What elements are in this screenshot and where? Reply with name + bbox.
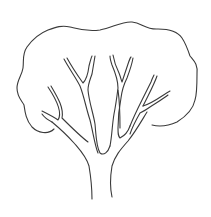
branch-right-main	[130, 75, 154, 126]
trunk-left-edge	[52, 122, 92, 199]
branch-right-twig-lower	[130, 95, 168, 134]
trunk-right-edge	[111, 112, 148, 197]
branch-center-inner	[113, 55, 131, 82]
tree-drawing	[0, 0, 211, 217]
branch-right-main-inner	[143, 76, 157, 106]
branch-left-main-outer	[64, 59, 98, 153]
tree-illustration	[0, 0, 211, 217]
branch-left-main-right	[88, 56, 110, 154]
branch-left-lower-inner	[42, 87, 60, 120]
